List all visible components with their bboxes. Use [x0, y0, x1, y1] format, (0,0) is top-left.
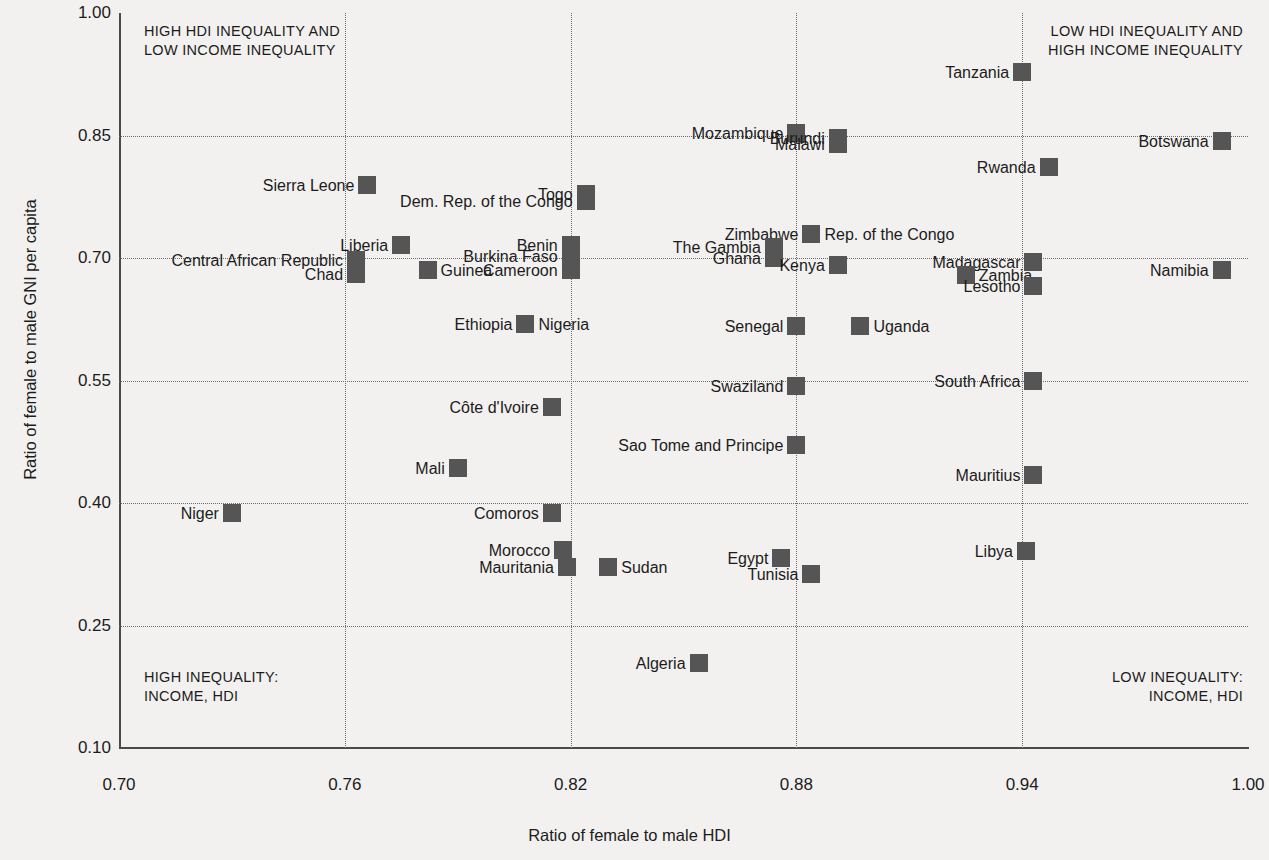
- y-tick-label: 0.85: [37, 126, 111, 146]
- gridline-horizontal: [119, 381, 1248, 382]
- data-point-marker: [787, 436, 805, 454]
- data-point-label: Niger: [181, 504, 219, 521]
- data-point-label: Botswana: [1138, 133, 1208, 150]
- data-point-marker: [543, 398, 561, 416]
- plot-area: TanzaniaBotswanaMozambiqueBurundiMalawiR…: [119, 13, 1248, 748]
- data-point-marker: [562, 261, 580, 279]
- data-point-marker: [1040, 158, 1058, 176]
- x-axis-title: Ratio of female to male HDI: [0, 826, 1259, 845]
- data-point-marker: [419, 261, 437, 279]
- data-point-marker: [358, 176, 376, 194]
- data-point-label: Rep. of the Congo: [824, 225, 954, 242]
- data-point-marker: [516, 315, 534, 333]
- data-point-marker: [1024, 277, 1042, 295]
- y-tick-label: 1.00: [37, 3, 111, 23]
- x-tick-label: 0.82: [536, 775, 606, 795]
- gridline-horizontal: [119, 136, 1248, 137]
- data-point-marker: [851, 317, 869, 335]
- data-point-label: Kenya: [779, 257, 824, 274]
- data-point-marker: [1013, 63, 1031, 81]
- data-point-marker: [690, 654, 708, 672]
- data-point-marker: [802, 225, 820, 243]
- data-point-label: South Africa: [934, 372, 1020, 389]
- annotation-bottom-left: HIGH INEQUALITY: INCOME, HDI: [144, 668, 279, 706]
- annotation-bottom-right: LOW INEQUALITY: INCOME, HDI: [1112, 668, 1243, 706]
- data-point-label: Tunisia: [747, 566, 798, 583]
- data-point-marker: [1017, 542, 1035, 560]
- data-point-label: Senegal: [725, 317, 784, 334]
- data-point-marker: [558, 558, 576, 576]
- data-point-label: Libya: [975, 543, 1013, 560]
- data-point-label: Dem. Rep. of the Congo: [400, 192, 573, 209]
- data-point-marker: [772, 549, 790, 567]
- data-point-marker: [787, 377, 805, 395]
- y-tick-label: 0.25: [37, 616, 111, 636]
- data-point-marker: [829, 256, 847, 274]
- gridline-horizontal: [119, 503, 1248, 504]
- data-point-marker: [392, 236, 410, 254]
- x-tick-label: 0.88: [761, 775, 831, 795]
- y-tick-label: 0.70: [37, 248, 111, 268]
- data-point-marker: [543, 504, 561, 522]
- data-point-label: Mauritania: [479, 558, 554, 575]
- data-point-label: Ethiopia: [455, 316, 513, 333]
- y-tick-label: 0.40: [37, 493, 111, 513]
- x-tick-label: 0.76: [310, 775, 380, 795]
- data-point-label: Morocco: [489, 542, 550, 559]
- data-point-marker: [599, 558, 617, 576]
- gridline-horizontal: [119, 626, 1248, 627]
- gridline-vertical: [1022, 13, 1023, 748]
- data-point-label: Nigeria: [538, 316, 589, 333]
- data-point-label: Mali: [415, 459, 444, 476]
- data-point-label: Egypt: [727, 549, 768, 566]
- data-point-marker: [449, 459, 467, 477]
- data-point-marker: [1213, 261, 1231, 279]
- y-tick-label: 0.10: [37, 738, 111, 758]
- data-point-marker: [1024, 372, 1042, 390]
- data-point-label: Côte d'Ivoire: [449, 398, 538, 415]
- data-point-label: Chad: [305, 266, 343, 283]
- data-point-marker: [577, 192, 595, 210]
- x-tick-label: 1.00: [1213, 775, 1269, 795]
- data-point-marker: [1024, 466, 1042, 484]
- data-point-label: Rwanda: [977, 158, 1036, 175]
- data-point-marker: [554, 541, 572, 559]
- data-point-marker: [223, 504, 241, 522]
- data-point-marker: [802, 565, 820, 583]
- y-tick-label: 0.55: [37, 371, 111, 391]
- data-point-label: Sierra Leone: [263, 176, 355, 193]
- data-point-label: Namibia: [1150, 262, 1209, 279]
- data-point-label: Malawi: [775, 135, 825, 152]
- data-point-marker: [829, 135, 847, 153]
- data-point-label: Sao Tome and Principe: [618, 437, 783, 454]
- x-tick-label: 0.94: [987, 775, 1057, 795]
- annotation-top-right: LOW HDI INEQUALITY AND HIGH INCOME INEQU…: [1048, 22, 1243, 60]
- y-axis-title-wrapper: Ratio of female to male GNI per capita: [0, 0, 40, 760]
- data-point-label: Swaziland: [710, 378, 783, 395]
- data-point-marker: [347, 265, 365, 283]
- data-point-label: Uganda: [873, 317, 929, 334]
- data-point-label: Guinea: [441, 262, 493, 279]
- data-point-marker: [787, 317, 805, 335]
- data-point-label: Lesotho: [964, 277, 1021, 294]
- y-axis-title: Ratio of female to male GNI per capita: [21, 140, 40, 540]
- data-point-label: Mauritius: [956, 467, 1021, 484]
- data-point-label: Algeria: [636, 655, 686, 672]
- x-tick-label: 0.70: [84, 775, 154, 795]
- data-point-label: Tanzania: [945, 63, 1009, 80]
- data-point-label: Comoros: [474, 504, 539, 521]
- data-point-marker: [1213, 132, 1231, 150]
- data-point-label: Sudan: [621, 558, 667, 575]
- gridline-vertical: [345, 13, 346, 748]
- gridline-vertical: [571, 13, 572, 748]
- data-point-label: Ghana: [713, 250, 761, 267]
- data-point-label: Cameroon: [483, 262, 558, 279]
- annotation-top-left: HIGH HDI INEQUALITY AND LOW INCOME INEQU…: [144, 22, 340, 60]
